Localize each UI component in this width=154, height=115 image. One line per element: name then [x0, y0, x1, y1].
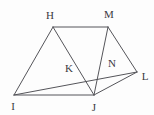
vertex-label-l: L	[142, 71, 149, 82]
vertex-label-h: H	[46, 10, 54, 21]
figure-canvas	[0, 0, 154, 115]
segment-jl	[94, 72, 137, 95]
vertex-label-m: M	[104, 9, 114, 20]
segment-il	[14, 72, 137, 95]
vertex-label-i: I	[11, 101, 15, 112]
vertex-label-k: K	[65, 63, 73, 74]
segment-hj	[53, 27, 94, 95]
segment-mj	[94, 27, 108, 95]
segment-hi	[14, 27, 53, 95]
edge-layer	[14, 27, 137, 95]
geometry-figure: HMLIJKN	[0, 0, 154, 115]
vertex-label-n: N	[108, 58, 116, 69]
vertex-label-j: J	[92, 102, 96, 113]
